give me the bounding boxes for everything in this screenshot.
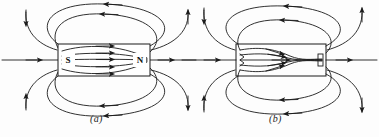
interior-arrow-b-3 bbox=[266, 49, 282, 54]
exterior-arrow-b-top-outer bbox=[286, 6, 302, 7]
pole-label-n-a: N bbox=[137, 55, 144, 65]
exterior-arrow-a-bottom-outer bbox=[106, 115, 122, 116]
far-line-b-right-top bbox=[327, 8, 362, 50]
panel-a-field-lines bbox=[2, 4, 196, 116]
exterior-loop-b-top-outer bbox=[226, 6, 341, 46]
far-line-b-left-bottom bbox=[204, 70, 235, 112]
panel-caption-b: (b) bbox=[269, 113, 282, 124]
exterior-arrow-a-top-outer bbox=[106, 4, 122, 5]
figure-root: S N (a) (b) bbox=[0, 0, 379, 137]
panel-b-field-lines bbox=[182, 6, 377, 114]
pole-label-s-a: S bbox=[65, 55, 70, 65]
far-line-b-right-bottom bbox=[327, 70, 362, 112]
interior-arrow-b-1 bbox=[268, 54, 284, 57]
panel-caption-a: (a) bbox=[90, 113, 103, 124]
exterior-loop-b-top-inner bbox=[238, 20, 332, 53]
exterior-loop-b-bottom-outer bbox=[226, 74, 341, 114]
exterior-arrow-a-top-inner bbox=[102, 14, 118, 15]
exterior-arrow-b-bottom-outer bbox=[286, 113, 302, 114]
far-line-b-left-top bbox=[204, 8, 235, 50]
exterior-loop-b-bottom-inner bbox=[238, 67, 332, 100]
interior-arrow-b-4 bbox=[266, 66, 282, 71]
magnetic-field-diagram: S N bbox=[0, 0, 379, 137]
interior-arrow-b-2 bbox=[268, 63, 284, 66]
exterior-arrow-a-bottom-inner bbox=[102, 105, 118, 106]
